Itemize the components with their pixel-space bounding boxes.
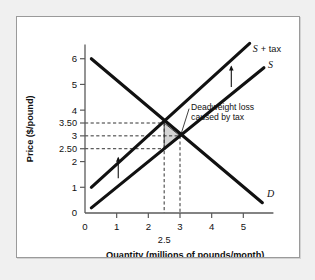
demand-curve bbox=[91, 59, 262, 203]
x-axis-ticks bbox=[117, 213, 244, 218]
x-tick-label: 0 bbox=[82, 221, 87, 232]
y-tick-label: 3.50 bbox=[59, 118, 77, 128]
y-tick-label: 2 bbox=[72, 156, 77, 167]
supply-plus-tax-label-suffix: + tax bbox=[261, 44, 282, 54]
y-origin-tick-label: 0 bbox=[72, 207, 77, 218]
y-tick-label: 2.50 bbox=[59, 144, 77, 154]
supply-curve bbox=[91, 68, 264, 208]
y-tick-label: 1 bbox=[72, 182, 77, 193]
x-axis-tick-labels: 012345 bbox=[82, 221, 246, 232]
x-axis-title: Quantity (millions of pounds/month) bbox=[106, 250, 264, 257]
supply-plus-tax-label-symbol: S bbox=[253, 43, 258, 54]
supply-curve-label: S bbox=[268, 59, 273, 70]
y-axis-tick-labels: 122.5033.504560 bbox=[59, 53, 78, 218]
x-tick-label: 2 bbox=[146, 221, 151, 232]
x-axis-extra-tick-label: 2.5 bbox=[158, 235, 171, 245]
y-tick-label: 4 bbox=[72, 105, 78, 116]
demand-curve-label: D bbox=[266, 188, 275, 199]
y-tick-label: 6 bbox=[72, 53, 77, 64]
y-axis-ticks bbox=[80, 59, 85, 188]
deadweight-loss-annotation-line2: caused by tax bbox=[191, 112, 245, 122]
y-tick-label: 5 bbox=[72, 79, 77, 90]
supply-demand-chart: 122.5033.504560 012345 2.5 S + tax S D D… bbox=[17, 17, 299, 257]
y-axis-title: Price ($/pound) bbox=[25, 95, 35, 162]
x-tick-label: 3 bbox=[177, 221, 182, 232]
figure-panel: 122.5033.504560 012345 2.5 S + tax S D D… bbox=[16, 16, 300, 258]
x-tick-label: 1 bbox=[114, 221, 119, 232]
deadweight-loss-annotation-line1: Deadweight loss bbox=[191, 102, 254, 112]
x-tick-label: 4 bbox=[209, 221, 215, 232]
y-tick-label: 3 bbox=[72, 130, 77, 141]
x-tick-label: 5 bbox=[241, 221, 246, 232]
